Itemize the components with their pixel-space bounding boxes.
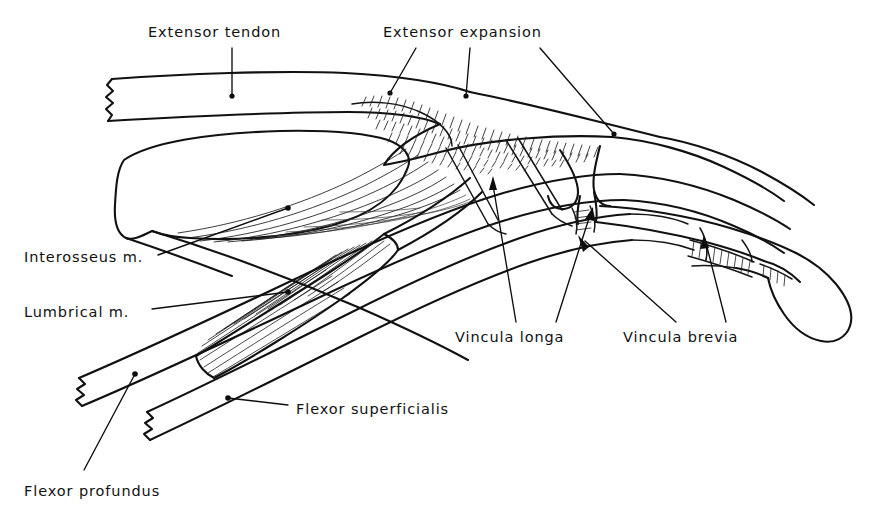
label-vincula-longa: Vincula longa [455,330,564,345]
label-lumbrical-m: Lumbrical m. [24,305,129,320]
interosseus-muscle [115,131,472,242]
leader-vincula-brevia [578,235,726,322]
phalanges [548,137,851,342]
label-extensor-tendon: Extensor tendon [148,25,281,40]
anatomy-figure: Extensor tendon Extensor expansion Inter… [0,0,892,521]
label-interosseus-m: Interosseus m. [24,250,143,265]
label-vincula-brevia: Vincula brevia [623,330,738,345]
leader-extensor-expansion [387,48,616,137]
extensor-tendon-band [106,72,470,124]
label-flexor-profundus: Flexor profundus [24,484,160,499]
label-extensor-expansion: Extensor expansion [383,25,542,40]
label-flexor-superficialis: Flexor superficialis [296,402,449,417]
